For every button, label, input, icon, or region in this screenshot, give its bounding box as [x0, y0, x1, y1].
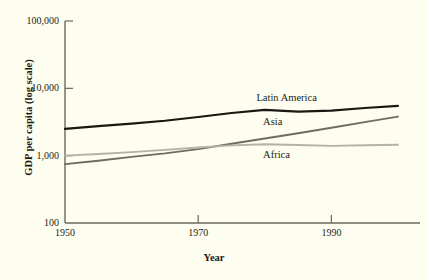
- y-tick-label: 100,000: [0, 15, 59, 26]
- x-tick-label: 1990: [306, 227, 356, 238]
- series-label-latin-america: Latin America: [256, 92, 316, 103]
- series-label-africa: Africa: [263, 149, 290, 160]
- series-label-asia: Asia: [263, 116, 282, 127]
- series-line-africa: [65, 144, 398, 155]
- x-tick-label: 1950: [40, 227, 90, 238]
- data-series-lines: [65, 106, 398, 164]
- plot-area: [0, 0, 428, 280]
- y-axis-title: GDP per capita (log scale): [23, 38, 34, 198]
- y-axis-ticks: [65, 21, 73, 156]
- x-axis-ticks: [198, 215, 331, 223]
- x-axis-title: Year: [0, 252, 428, 263]
- gdp-per-capita-line-chart: 1001,00010,000100,000 195019701990 Latin…: [0, 0, 428, 280]
- x-tick-label: 1970: [173, 227, 223, 238]
